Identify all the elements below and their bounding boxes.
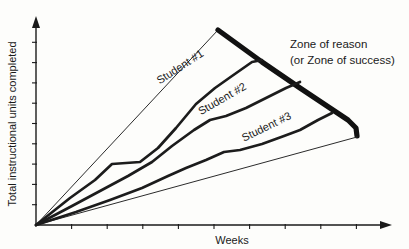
series-line-student-3 <box>36 113 332 225</box>
series-label-student-1: Student #1 <box>154 47 205 86</box>
x-axis-title: Weeks <box>215 234 249 246</box>
zone-annotation-line-1: Zone of reason <box>290 38 367 50</box>
y-axis-title: Total instructional units completed <box>6 41 18 206</box>
x-axis <box>36 221 392 229</box>
y-axis <box>32 16 40 225</box>
x-axis-arrow <box>380 221 392 229</box>
zone-lower-boundary-thin <box>36 137 357 225</box>
series-line-student-2 <box>36 82 300 225</box>
chart-canvas: Student #1 Student #2 Student #3 Zone of… <box>0 0 409 249</box>
zone-annotation: Zone of reason (or Zone of success) <box>290 38 395 66</box>
y-axis-arrow <box>32 16 40 28</box>
series-label-student-3: Student #3 <box>240 109 293 143</box>
chart-figure: Student #1 Student #2 Student #3 Zone of… <box>0 0 409 249</box>
series-group <box>36 60 332 225</box>
series-line-student-1 <box>36 60 262 225</box>
zone-annotation-line-2: (or Zone of success) <box>290 54 395 66</box>
